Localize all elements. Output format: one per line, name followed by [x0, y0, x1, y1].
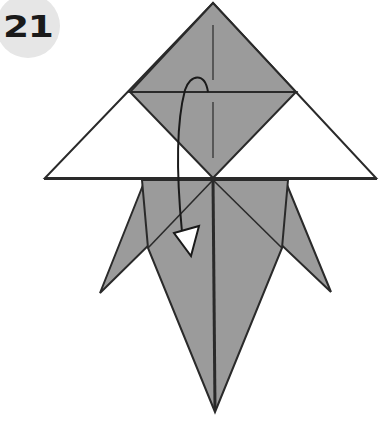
origami-diagram — [0, 0, 385, 445]
